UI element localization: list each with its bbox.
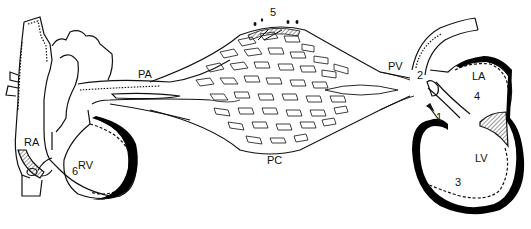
label-left-atrium: LA (472, 71, 485, 82)
label-1: 1 (436, 112, 442, 123)
label-right-atrium: RA (24, 137, 39, 148)
label-pulmonary-artery: PA (138, 69, 152, 80)
left-heart (412, 18, 512, 198)
label-left-ventricle: LV (475, 153, 488, 164)
label-6: 6 (72, 166, 78, 177)
label-5: 5 (270, 7, 276, 18)
label-pulmonary-vein: PV (388, 61, 403, 72)
label-2: 2 (417, 70, 423, 81)
capillary-bed (150, 27, 414, 154)
label-3: 3 (455, 177, 461, 188)
label-right-ventricle: RV (78, 160, 93, 171)
label-pulmonary-capillaries: PC (267, 155, 282, 166)
pulmonary-circulation-diagram (0, 0, 531, 229)
site-5 (248, 18, 300, 40)
label-4: 4 (474, 91, 480, 102)
